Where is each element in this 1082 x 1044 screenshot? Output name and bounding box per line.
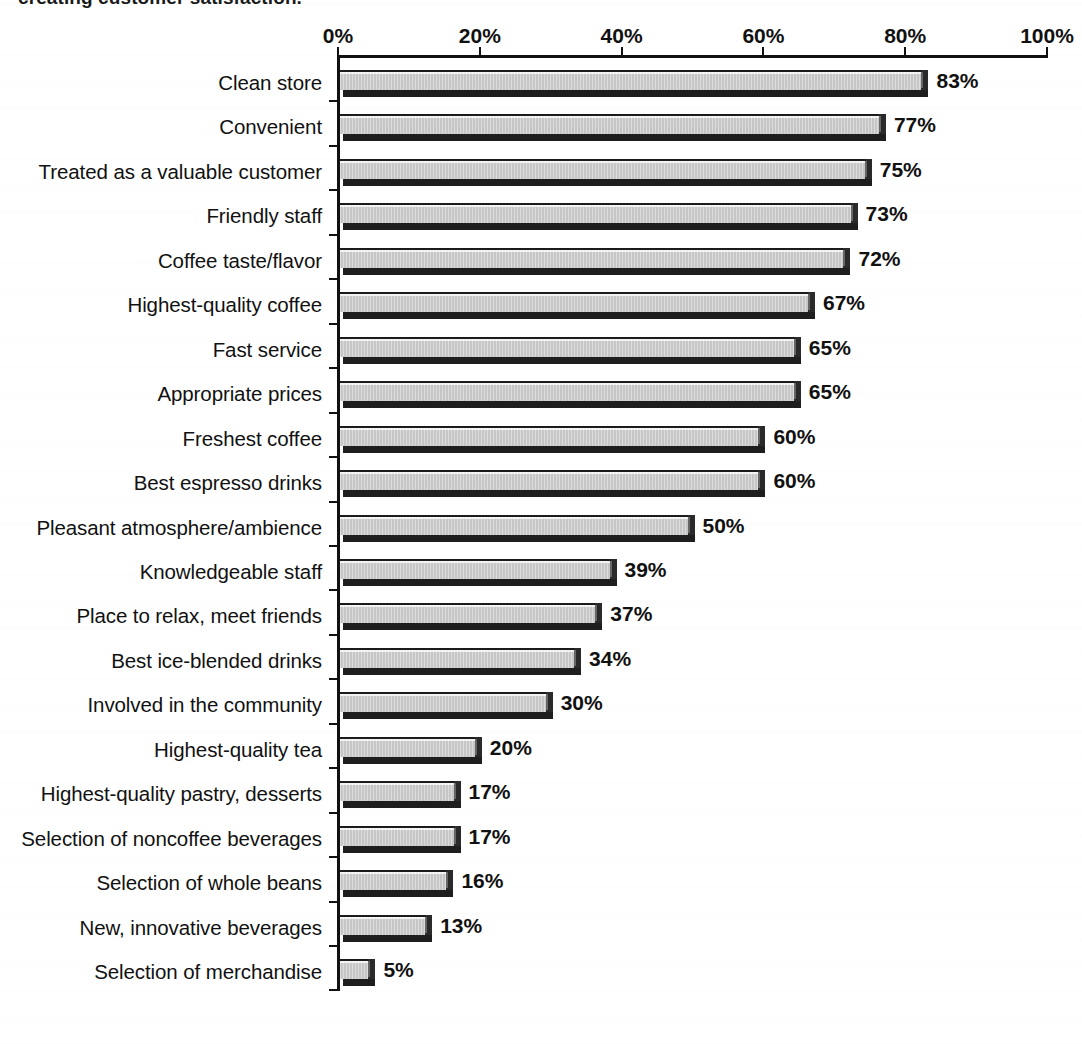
bar[interactable]	[340, 737, 482, 764]
bar[interactable]	[340, 959, 375, 986]
bar-row[interactable]: Selection of merchandise5%	[0, 951, 1082, 995]
x-axis-line	[338, 55, 1048, 58]
bar-row[interactable]: Involved in the community30%	[0, 684, 1082, 728]
bar[interactable]	[340, 381, 801, 408]
bar-row[interactable]: Highest-quality pastry, desserts17%	[0, 773, 1082, 817]
bar-row[interactable]: Best ice-blended drinks34%	[0, 640, 1082, 684]
bar-value-label: 65%	[809, 380, 851, 404]
y-axis-tick	[329, 589, 338, 591]
bar-bottom-shadow	[343, 846, 461, 853]
bar[interactable]	[340, 826, 461, 853]
y-axis-tick	[329, 634, 338, 636]
bar[interactable]	[340, 559, 617, 586]
x-axis-tick	[479, 47, 481, 56]
bar-row[interactable]: Selection of whole beans16%	[0, 862, 1082, 906]
bar-top-highlight	[340, 605, 602, 607]
category-label: Place to relax, meet friends	[76, 604, 322, 628]
bar-row[interactable]: Knowledgeable staff39%	[0, 551, 1082, 595]
bar-right-highlight	[688, 517, 690, 533]
x-axis-tick	[1046, 47, 1048, 56]
x-axis-tick-label: 100%	[1020, 24, 1074, 48]
bar-row[interactable]: Pleasant atmosphere/ambience50%	[0, 507, 1082, 551]
bar-right-highlight	[758, 472, 760, 488]
bar-right-highlight	[446, 872, 448, 888]
bar-right-highlight	[851, 205, 853, 221]
bar-bottom-shadow	[343, 801, 461, 808]
bar-top-highlight	[340, 205, 858, 207]
bar-row[interactable]: Appropriate prices65%	[0, 373, 1082, 417]
bar-row[interactable]: Best espresso drinks60%	[0, 462, 1082, 506]
bar-value-label: 30%	[561, 691, 603, 715]
bar[interactable]	[340, 870, 453, 897]
y-axis-tick	[329, 767, 338, 769]
y-axis-tick	[329, 501, 338, 503]
bar-row[interactable]: Treated as a valuable customer75%	[0, 151, 1082, 195]
x-axis-tick-label: 20%	[459, 24, 501, 48]
bar[interactable]	[340, 515, 695, 542]
bar[interactable]	[340, 915, 432, 942]
bar-row[interactable]: Highest-quality tea20%	[0, 729, 1082, 773]
bar-top-highlight	[340, 161, 872, 163]
bar-bottom-shadow	[343, 179, 872, 186]
bar-value-label: 60%	[773, 425, 815, 449]
bar[interactable]	[340, 292, 815, 319]
x-axis-tick-label: 60%	[742, 24, 784, 48]
category-label: Freshest coffee	[183, 427, 322, 451]
bar-right-highlight	[454, 783, 456, 799]
bar-row[interactable]: Freshest coffee60%	[0, 418, 1082, 462]
y-axis-tick	[329, 100, 338, 102]
bar[interactable]	[340, 159, 872, 186]
bar[interactable]	[340, 337, 801, 364]
x-axis-tick-label: 40%	[601, 24, 643, 48]
bar[interactable]	[340, 603, 602, 630]
bar-right-highlight	[454, 828, 456, 844]
bar-right-highlight	[879, 116, 881, 132]
bar-right-highlight	[546, 694, 548, 710]
bar[interactable]	[340, 692, 553, 719]
bar-top-highlight	[340, 694, 553, 696]
bar-top-highlight	[340, 116, 886, 118]
bar[interactable]	[340, 114, 886, 141]
bar-bottom-shadow	[343, 623, 602, 630]
bar-row[interactable]: Place to relax, meet friends37%	[0, 595, 1082, 639]
bar[interactable]	[340, 70, 928, 97]
y-axis-tick	[329, 234, 338, 236]
bar[interactable]	[340, 470, 765, 497]
category-label: Appropriate prices	[157, 382, 322, 406]
y-axis-tick	[329, 678, 338, 680]
category-label: Best espresso drinks	[134, 471, 322, 495]
bar[interactable]	[340, 203, 858, 230]
category-label: Highest-quality coffee	[127, 293, 322, 317]
bar-row[interactable]: Selection of noncoffee beverages17%	[0, 818, 1082, 862]
bar-row[interactable]: Highest-quality coffee67%	[0, 284, 1082, 328]
bar-row[interactable]: Clean store83%	[0, 62, 1082, 106]
bar[interactable]	[340, 648, 581, 675]
bar-value-label: 50%	[703, 514, 745, 538]
y-axis-tick	[329, 367, 338, 369]
bar-row[interactable]: Fast service65%	[0, 329, 1082, 373]
bar-right-highlight	[368, 961, 370, 977]
bar[interactable]	[340, 426, 765, 453]
bar-row[interactable]: Friendly staff73%	[0, 195, 1082, 239]
y-axis-tick	[329, 412, 338, 414]
bar-value-label: 65%	[809, 336, 851, 360]
bar-value-label: 75%	[880, 158, 922, 182]
y-axis-tick	[329, 456, 338, 458]
y-axis-tick	[329, 189, 338, 191]
bar-bottom-shadow	[343, 979, 375, 986]
bar[interactable]	[340, 781, 461, 808]
bar-bottom-shadow	[343, 134, 886, 141]
bar-value-label: 83%	[936, 69, 978, 93]
category-label: Treated as a valuable customer	[39, 160, 322, 184]
bar-right-highlight	[475, 739, 477, 755]
bar-row[interactable]: Coffee taste/flavor72%	[0, 240, 1082, 284]
category-label: Selection of merchandise	[94, 960, 322, 984]
bar-bottom-shadow	[343, 535, 695, 542]
bar-value-label: 77%	[894, 113, 936, 137]
bar[interactable]	[340, 248, 850, 275]
bar-value-label: 17%	[469, 780, 511, 804]
bar-row[interactable]: Convenient77%	[0, 106, 1082, 150]
bar-top-highlight	[340, 250, 850, 252]
bar-row[interactable]: New, innovative beverages13%	[0, 907, 1082, 951]
bar-bottom-shadow	[343, 401, 801, 408]
